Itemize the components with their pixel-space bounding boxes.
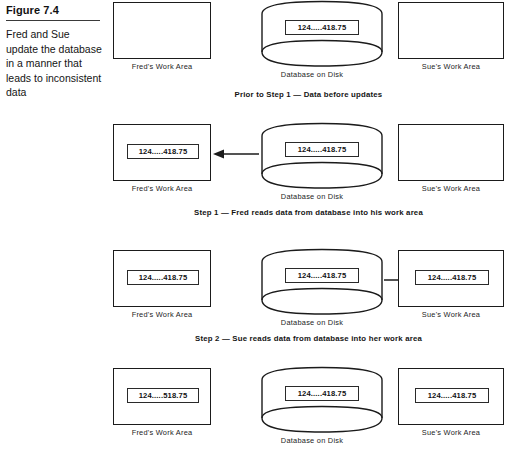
diagram-row-step-2: 124.....418.75 Fred's Work Area 124.....… xyxy=(108,250,509,362)
sue-value-chip: 124.....418.75 xyxy=(415,388,489,403)
sue-value-chip: 124.....418.75 xyxy=(415,270,489,285)
step-caption-step-2: Step 2 — Sue reads data from database in… xyxy=(108,334,509,343)
sue-work-area-label: Sue's Work Area xyxy=(398,62,504,71)
database-label: Database on Disk xyxy=(248,70,376,79)
database-value-chip: 124.....418.75 xyxy=(285,268,359,283)
fred-work-area-label: Fred's Work Area xyxy=(113,184,211,193)
database-cylinder: 124.....418.75 xyxy=(258,248,386,316)
diagram-row-step-1: 124.....418.75 Fred's Work Area 124.....… xyxy=(108,124,509,236)
fred-work-area-label: Fred's Work Area xyxy=(113,428,211,437)
step-caption-prior: Prior to Step 1 — Data before updates xyxy=(108,90,509,99)
database-label: Database on Disk xyxy=(248,192,376,201)
sue-work-area-label: Sue's Work Area xyxy=(398,428,504,437)
fred-work-area-box: 124.....518.75 xyxy=(113,368,211,425)
figure-caption-block: Figure 7.4 Fred and Sue update the datab… xyxy=(6,4,104,100)
figure-rule-divider xyxy=(6,20,100,21)
fred-value-chip: 124.....418.75 xyxy=(127,270,199,285)
step-caption-step-1: Step 1 — Fred reads data from database i… xyxy=(108,208,509,217)
database-value-chip: 124.....418.75 xyxy=(285,386,359,401)
fred-value-chip: 124.....418.75 xyxy=(127,144,199,159)
fred-value-chip: 124.....518.75 xyxy=(127,388,199,403)
sue-work-area-label: Sue's Work Area xyxy=(398,310,504,319)
sue-work-area-box: 124.....418.75 xyxy=(398,250,504,307)
diagram-row-prior: Fred's Work Area 124.....418.75 Database… xyxy=(108,2,509,114)
database-label: Database on Disk xyxy=(248,436,376,445)
database-cylinder: 124.....418.75 xyxy=(258,0,386,68)
fred-work-area-label: Fred's Work Area xyxy=(113,310,211,319)
fred-work-area-box xyxy=(113,2,211,59)
fred-work-area-box: 124.....418.75 xyxy=(113,124,211,181)
figure-number: Figure 7.4 xyxy=(6,4,104,17)
sue-work-area-box: 124.....418.75 xyxy=(398,368,504,425)
database-value-chip: 124.....418.75 xyxy=(285,20,359,35)
diagram-area: Fred's Work Area 124.....418.75 Database… xyxy=(108,0,509,455)
sue-work-area-box xyxy=(398,124,504,181)
database-cylinder: 124.....418.75 xyxy=(258,366,386,434)
sue-work-area-label: Sue's Work Area xyxy=(398,184,504,193)
fred-work-area-label: Fred's Work Area xyxy=(113,62,211,71)
diagram-row-step-3: 124.....518.75 Fred's Work Area 124.....… xyxy=(108,368,509,455)
database-label: Database on Disk xyxy=(248,318,376,327)
database-cylinder: 124.....418.75 xyxy=(258,122,386,190)
arrow-db-to-fred-icon xyxy=(212,148,260,160)
sue-work-area-box xyxy=(398,2,504,59)
database-value-chip: 124.....418.75 xyxy=(285,142,359,157)
figure-caption-text: Fred and Sue update the database in a ma… xyxy=(6,27,102,100)
fred-work-area-box: 124.....418.75 xyxy=(113,250,211,307)
